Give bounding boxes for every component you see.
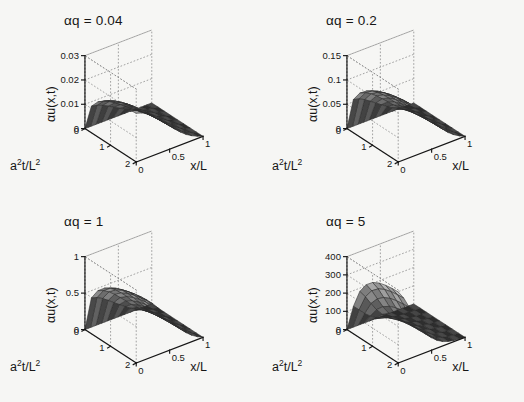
z-tick-label: 0.02 [60, 75, 79, 85]
z-axis-label: αu(x,t) [307, 287, 320, 323]
surface-mesh [85, 101, 203, 137]
x-axis-label: x/L [190, 160, 207, 173]
z-tick-label: 0.1 [328, 75, 341, 85]
surface-mesh [85, 288, 203, 337]
subplot-2: αq = 0.200.050.10.1501200.51αu(x,t)a2t/L… [262, 0, 524, 201]
x-tick-label: 0.5 [434, 353, 447, 363]
y-axis-label: a2t/L2 [10, 160, 40, 173]
x-axis-label: x/L [452, 160, 469, 173]
y-tick-label: 0 [74, 327, 79, 337]
z-tick-label: 300 [325, 270, 341, 280]
subplot-4: αq = 5010020030040001200.51αu(x,t)a2t/L2… [262, 201, 524, 402]
z-tick-label: 0.15 [322, 51, 341, 61]
y-axis-label: a2t/L2 [272, 361, 302, 374]
x-axis-label: x/L [190, 361, 207, 374]
x-axis-label: x/L [452, 361, 469, 374]
y-axis-label: a2t/L2 [10, 361, 40, 374]
x-tick-label: 1 [467, 139, 472, 149]
z-tick-label: 0.5 [66, 288, 79, 298]
y-tick-label: 1 [99, 142, 104, 152]
z-axis-label: αu(x,t) [45, 86, 58, 122]
surface-mesh [347, 282, 465, 341]
x-tick-label: 0 [138, 366, 143, 376]
z-tick-label: 0.05 [322, 99, 341, 109]
z-tick-label: 0.03 [60, 51, 79, 61]
x-tick-label: 0 [400, 165, 405, 175]
x-tick-label: 0.5 [434, 152, 447, 162]
z-axis-label: αu(x,t) [307, 86, 320, 122]
z-tick-label: 100 [325, 306, 341, 316]
axes-grid [85, 30, 152, 162]
z-tick-label: 1 [74, 252, 79, 262]
x-tick-label: 1 [205, 340, 210, 350]
y-tick-label: 1 [361, 142, 366, 152]
y-tick-label: 1 [361, 343, 366, 353]
y-tick-label: 2 [387, 360, 392, 370]
y-tick-label: 0 [336, 126, 341, 136]
x-tick-label: 1 [205, 139, 210, 149]
subplot-title: αq = 5 [326, 215, 365, 229]
x-tick-label: 0.5 [172, 353, 185, 363]
figure-root: αq = 0.0400.010.020.0301200.51αu(x,t)a2t… [0, 0, 524, 402]
y-tick-label: 0 [336, 327, 341, 337]
y-axis-label: a2t/L2 [272, 160, 302, 173]
surface-mesh [347, 91, 465, 136]
subplot-title: αq = 1 [64, 215, 103, 229]
subplot-title: αq = 0.2 [326, 14, 377, 28]
y-tick-label: 2 [387, 159, 392, 169]
y-tick-label: 2 [125, 360, 130, 370]
x-tick-label: 0 [400, 366, 405, 376]
x-tick-label: 0.5 [172, 152, 185, 162]
subplot-title: αq = 0.04 [64, 14, 123, 28]
y-tick-label: 1 [99, 343, 104, 353]
subplot-grid: αq = 0.0400.010.020.0301200.51αu(x,t)a2t… [0, 0, 524, 402]
z-tick-label: 0.01 [60, 99, 79, 109]
z-tick-label: 400 [325, 252, 341, 262]
z-tick-label: 200 [325, 288, 341, 298]
y-tick-label: 2 [125, 159, 130, 169]
subplot-1: αq = 0.0400.010.020.0301200.51αu(x,t)a2t… [0, 0, 262, 201]
x-tick-label: 0 [138, 165, 143, 175]
subplot-3: αq = 100.5101200.51αu(x,t)a2t/L2x/L [0, 201, 262, 402]
x-tick-label: 1 [467, 340, 472, 350]
y-tick-label: 0 [74, 126, 79, 136]
z-axis-label: αu(x,t) [45, 287, 58, 323]
